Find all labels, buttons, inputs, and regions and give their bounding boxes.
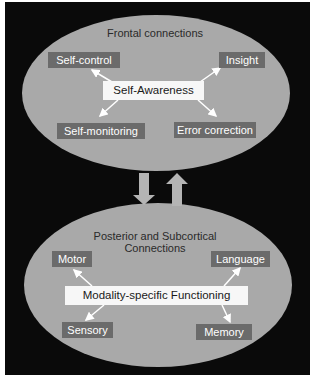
node-insight: Insight xyxy=(219,52,265,68)
posterior-ellipse xyxy=(24,203,292,367)
diagram-graphics xyxy=(0,0,313,380)
center-modality-specific-functioning: Modality-specific Functioning xyxy=(65,286,248,305)
posterior-title-line1: Posterior and Subcortical xyxy=(90,230,220,242)
posterior-title-line2: Connections xyxy=(90,242,220,254)
node-motor: Motor xyxy=(52,251,92,267)
node-self-monitoring: Self-monitoring xyxy=(57,123,145,139)
node-memory: Memory xyxy=(196,324,252,340)
node-language: Language xyxy=(211,251,270,267)
node-sensory: Sensory xyxy=(62,322,113,338)
node-error-correction: Error correction xyxy=(174,122,256,138)
frontal-title: Frontal connections xyxy=(90,27,220,39)
down-arrow-icon xyxy=(133,173,155,205)
node-self-control: Self-control xyxy=(48,52,120,68)
up-arrow-icon xyxy=(166,173,188,206)
center-self-awareness: Self-Awareness xyxy=(103,81,204,100)
